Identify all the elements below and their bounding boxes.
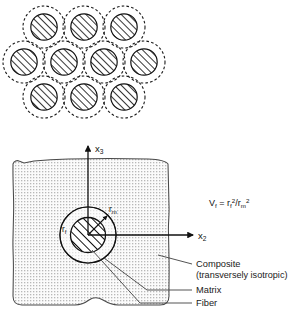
- unit-cell: [23, 76, 65, 118]
- fiber-circle: [51, 49, 77, 75]
- fiber-circle: [91, 49, 117, 75]
- fiber-circle: [71, 14, 97, 40]
- callout-composite-label: Composite: [196, 259, 240, 269]
- unit-cell: [63, 76, 105, 118]
- figure-canvas: x3 x2 rm rf Vf = rf2/rm2 Composite (tran…: [0, 0, 305, 332]
- axis-x3-label: x3: [95, 143, 104, 155]
- fiber-circle: [31, 84, 57, 110]
- fiber-circle: [31, 14, 57, 40]
- callout-matrix-label: Matrix: [196, 285, 222, 295]
- unit-cell: [103, 76, 145, 118]
- fiber-circle: [131, 49, 157, 75]
- callout-composite-sublabel: (transversely isotropic): [196, 270, 287, 280]
- callout-fiber-label: Fiber: [196, 298, 217, 308]
- composite-micromechanics-figure: x3 x2 rm rf Vf = rf2/rm2 Composite (tran…: [0, 0, 305, 332]
- fiber-circle: [111, 14, 137, 40]
- axis-x2-label: x2: [198, 230, 207, 242]
- hexagonal-packing-array: [3, 6, 165, 118]
- fiber-circle: [111, 84, 137, 110]
- fiber-circle: [11, 49, 37, 75]
- unit-cell: [123, 41, 165, 83]
- packing-row-middle: [3, 41, 165, 83]
- packing-row-top: [23, 6, 145, 48]
- packing-row-bottom: [23, 76, 145, 118]
- rve-block-diagram: x3 x2 rm rf Vf = rf2/rm2 Composite (tran…: [13, 143, 288, 308]
- volume-fraction-formula: Vf = rf2/rm2: [209, 197, 250, 209]
- fiber-circle: [71, 84, 97, 110]
